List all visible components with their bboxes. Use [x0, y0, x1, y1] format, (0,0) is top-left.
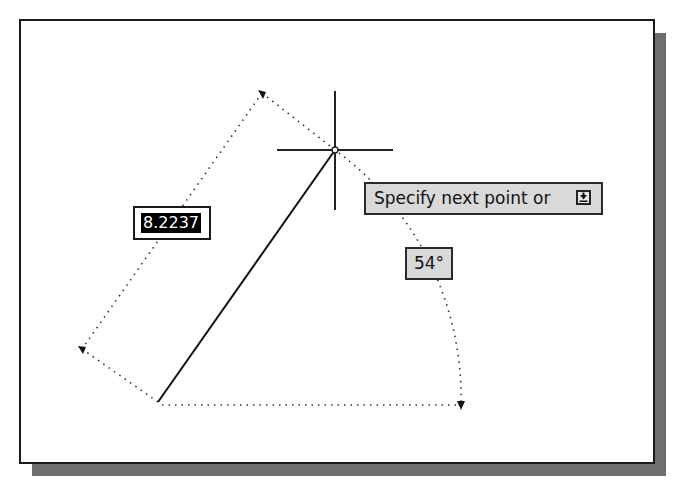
length-value[interactable]: 8.2237 — [141, 213, 201, 233]
length-input-box[interactable]: 8.2237 — [133, 206, 211, 240]
angle-input-box[interactable]: 54° — [405, 247, 453, 280]
angle-value[interactable]: 54° — [407, 252, 451, 274]
drawing-area[interactable] — [19, 19, 655, 464]
down-arrow-icon[interactable] — [576, 190, 591, 205]
command-prompt-tooltip: Specify next point or — [364, 182, 603, 215]
prompt-text: Specify next point or — [374, 188, 550, 209]
